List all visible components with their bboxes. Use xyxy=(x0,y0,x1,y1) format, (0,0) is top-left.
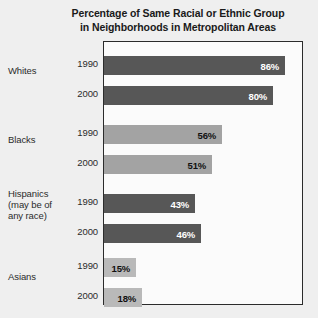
group-label-whites: Whites xyxy=(8,65,36,76)
bars-layer: 86%80%56%51%43%46%15%18% xyxy=(104,42,302,304)
plot-area: 86%80%56%51%43%46%15%18% xyxy=(103,41,303,305)
bar-value-whites-1990: 86% xyxy=(261,60,279,71)
title-line-1: Percentage of Same Racial or Ethnic Grou… xyxy=(44,7,312,21)
bar-asians-1990: 15% xyxy=(104,258,136,277)
group-label-blacks: Blacks xyxy=(8,134,35,145)
year-label-asians-1990: 1990 xyxy=(77,260,98,271)
bar-value-hispanics-1990: 43% xyxy=(171,198,189,209)
title-line-2: in Neighborhoods in Metropolitan Areas xyxy=(44,21,312,35)
bar-value-whites-2000: 80% xyxy=(249,90,267,101)
bar-value-blacks-2000: 51% xyxy=(188,159,206,170)
group-label-hispanics: Hispanics (may be of any race) xyxy=(8,188,52,221)
bar-asians-2000: 18% xyxy=(104,288,142,307)
year-label-asians-2000: 2000 xyxy=(77,290,98,301)
year-label-whites-1990: 1990 xyxy=(77,58,98,69)
year-label-hispanics-2000: 2000 xyxy=(77,226,98,237)
bar-whites-2000: 80% xyxy=(104,86,273,105)
year-label-hispanics-1990: 1990 xyxy=(77,196,98,207)
year-label-whites-2000: 2000 xyxy=(77,88,98,99)
bar-whites-1990: 86% xyxy=(104,56,285,75)
bar-value-asians-1990: 15% xyxy=(112,262,130,273)
year-label-blacks-1990: 1990 xyxy=(77,127,98,138)
group-label-asians: Asians xyxy=(8,271,36,282)
bar-value-hispanics-2000: 46% xyxy=(177,228,195,239)
bar-hispanics-2000: 46% xyxy=(104,224,201,243)
axis-left: Whites Blacks Hispanics (may be of any r… xyxy=(0,41,103,305)
page-title: Percentage of Same Racial or Ethnic Grou… xyxy=(44,7,312,34)
bar-value-asians-2000: 18% xyxy=(118,292,136,303)
bar-hispanics-1990: 43% xyxy=(104,194,195,213)
bar-blacks-2000: 51% xyxy=(104,155,212,174)
chart-page: Percentage of Same Racial or Ethnic Grou… xyxy=(0,0,318,318)
bar-blacks-1990: 56% xyxy=(104,125,222,144)
year-label-blacks-2000: 2000 xyxy=(77,157,98,168)
bar-value-blacks-1990: 56% xyxy=(198,129,216,140)
